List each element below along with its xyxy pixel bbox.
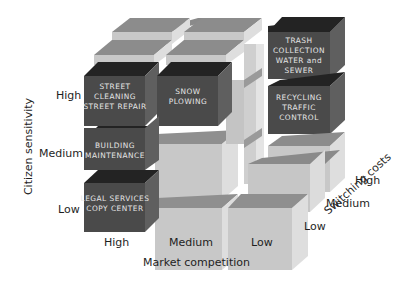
- snow-line-1: SNOW: [175, 87, 201, 96]
- trash-line-3: WATER and: [276, 56, 322, 65]
- cube-trash: TRASH COLLECTION WATER and SEWER: [268, 17, 345, 79]
- x-tick-high: High: [104, 236, 129, 249]
- recycling-line-2: TRAFFIC: [281, 103, 316, 112]
- cube-snow: SNOW PLOWING: [157, 62, 232, 126]
- street-line-1: STREET: [99, 82, 130, 91]
- cube-street: STREET CLEANING STREET REPAIR: [83, 62, 159, 126]
- trash-line-4: SEWER: [285, 66, 314, 75]
- cube-legal: LEGAL SERVICES COPY CENTER: [81, 170, 159, 232]
- x-tick-medium: Medium: [169, 236, 213, 249]
- x-axis-title: Market competition: [143, 256, 250, 269]
- trash-line-1: TRASH: [284, 36, 312, 45]
- cube-recycling: RECYCLING TRAFFIC CONTROL: [268, 72, 345, 134]
- z-tick-low: Low: [304, 220, 326, 233]
- y-tick-low: Low: [58, 203, 80, 216]
- y-tick-medium: Medium: [39, 147, 83, 160]
- y-tick-high: High: [56, 89, 81, 102]
- legal-line-1: LEGAL SERVICES: [81, 194, 150, 203]
- recycling-line-1: RECYCLING: [276, 93, 322, 102]
- recycling-line-3: CONTROL: [279, 113, 319, 122]
- building-line-2: MAINTENANCE: [85, 151, 145, 160]
- building-line-1: BUILDING: [95, 141, 135, 150]
- street-line-3: STREET REPAIR: [83, 102, 146, 111]
- trash-line-2: COLLECTION: [273, 46, 325, 55]
- snow-line-2: PLOWING: [169, 97, 207, 106]
- y-axis-title: Citizen sensitivity: [22, 92, 35, 202]
- legal-line-2: COPY CENTER: [86, 204, 143, 213]
- street-line-2: CLEANING: [94, 92, 136, 101]
- x-tick-low: Low: [251, 236, 273, 249]
